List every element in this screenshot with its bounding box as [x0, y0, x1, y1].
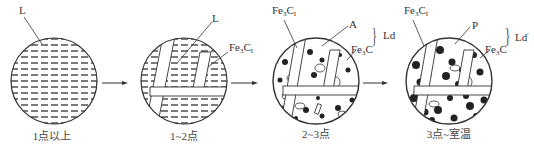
stage-1-circle [11, 17, 97, 124]
arrow-3 [363, 81, 388, 85]
brace-ld: } [372, 20, 377, 50]
caption-stage-3: 2~3点 [302, 128, 330, 140]
label-transformed-ledeburite: Ld′ [515, 30, 529, 43]
label-ledeburite: Ld [383, 30, 395, 41]
stage-3-circle [273, 20, 363, 128]
stage-2-circle [141, 22, 230, 128]
arrow-1 [102, 81, 128, 85]
caption-stage-4: 3点~室温 [427, 128, 471, 140]
label-fe3c-stage3: Fe3C [351, 44, 373, 59]
label-liquid-stage2: L [212, 13, 219, 24]
stage-4-circle [406, 20, 494, 128]
caption-stage-1: 1点以上 [33, 130, 72, 142]
label-fe3c-primary-stage2: Fe3CI [229, 42, 253, 57]
label-fe3c-stage4: Fe3C [485, 44, 507, 59]
leader-line-L1 [24, 17, 42, 44]
label-fe3c-primary-stage3: Fe3CI [272, 5, 296, 20]
diagram-canvas [0, 0, 534, 149]
label-liquid-stage1: L [19, 5, 26, 16]
caption-stage-2: 1~2点 [170, 130, 198, 142]
label-fe3c-primary-stage4: Fe3CI [404, 5, 428, 20]
brace-ld-prime: } [505, 18, 510, 52]
label-pearlite: P [472, 20, 478, 31]
label-austenite: A [349, 19, 357, 30]
arrow-2 [231, 81, 258, 85]
